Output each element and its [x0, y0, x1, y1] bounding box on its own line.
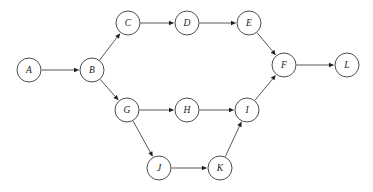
edge-b-to-c — [100, 33, 121, 60]
node-label-l: L — [343, 60, 349, 70]
node-label-h: H — [183, 105, 192, 115]
edge-f-to-l — [297, 63, 335, 68]
edge-d-to-e — [200, 21, 237, 26]
graph-node-c[interactable]: C — [116, 11, 140, 35]
graph-node-i[interactable]: I — [235, 98, 259, 122]
graph-node-k[interactable]: K — [208, 156, 232, 180]
graph-node-g[interactable]: G — [115, 98, 139, 122]
arrowhead-icon — [329, 63, 334, 68]
arrowhead-icon — [74, 68, 79, 73]
edge-i-to-f — [255, 75, 276, 100]
edge-g-to-j — [133, 121, 153, 157]
edge-b-to-g — [100, 79, 118, 100]
graph-node-j[interactable]: J — [147, 156, 171, 180]
graph-node-a[interactable]: A — [17, 58, 41, 82]
edge-a-to-b — [42, 68, 80, 73]
graph-node-f[interactable]: F — [272, 53, 296, 77]
graph-node-e[interactable]: E — [237, 11, 261, 35]
node-label-g: G — [124, 105, 131, 115]
graph-node-h[interactable]: H — [175, 98, 199, 122]
node-label-f: F — [280, 60, 287, 70]
graph-node-b[interactable]: B — [80, 58, 104, 82]
graph-node-d[interactable]: D — [175, 11, 199, 35]
node-label-a: A — [25, 65, 32, 75]
edge-g-to-h — [140, 108, 175, 113]
node-label-c: C — [125, 18, 132, 28]
graph-svg: ABCDEFGHIJKL — [0, 0, 373, 192]
node-label-b: B — [89, 65, 95, 75]
graph-node-l[interactable]: L — [335, 53, 359, 77]
edge-e-to-f — [257, 33, 276, 56]
graph-diagram-canvas: ABCDEFGHIJKL — [0, 0, 373, 192]
arrowhead-icon — [169, 21, 174, 26]
edge-c-to-d — [141, 21, 175, 26]
node-label-d: D — [183, 18, 191, 28]
arrowhead-icon — [169, 108, 174, 113]
arrowhead-icon — [229, 108, 234, 113]
node-label-e: E — [245, 18, 252, 28]
edge-j-to-k — [172, 166, 208, 171]
edge-h-to-i — [200, 108, 235, 113]
arrowhead-icon — [231, 21, 236, 26]
nodes-layer: ABCDEFGHIJKL — [17, 11, 359, 180]
node-label-k: K — [216, 163, 224, 173]
edge-k-to-i — [225, 122, 241, 157]
arrowhead-icon — [115, 33, 120, 39]
arrowhead-icon — [202, 166, 207, 171]
edges-layer — [42, 21, 335, 171]
